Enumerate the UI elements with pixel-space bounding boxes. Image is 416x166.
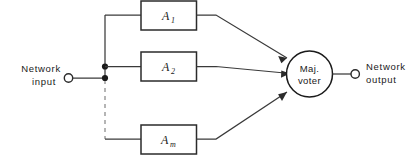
- block-am-subscript: m: [170, 140, 176, 149]
- majority-voter-label-line1: Maj.: [300, 63, 320, 74]
- wire-a1-to-voter: [197, 15, 288, 58]
- arrowhead-am-to-voter: [278, 92, 287, 101]
- block-am[interactable]: [141, 125, 197, 154]
- network-input-label-line2: input: [32, 76, 56, 87]
- network-output-label-line2: output: [366, 74, 397, 85]
- network-input-label-line1: Network: [21, 63, 61, 74]
- diagram-canvas: A 1 A 2 A m Maj. voter Network input Net…: [0, 0, 416, 166]
- majority-voter[interactable]: [287, 51, 333, 97]
- block-a2-label: A: [161, 60, 170, 74]
- block-a2-subscript: 2: [171, 67, 175, 76]
- network-output-label-line1: Network: [366, 61, 406, 72]
- majority-voter-label-line2: voter: [298, 75, 321, 86]
- block-am-label: A: [160, 133, 169, 147]
- network-output-terminal[interactable]: [351, 70, 359, 78]
- block-a1-subscript: 1: [171, 16, 175, 25]
- junction-dot-lower: [102, 75, 108, 81]
- wire-a2-to-voter: [197, 67, 291, 74]
- wire-am-to-voter: [197, 92, 288, 139]
- redundant-network-diagram: A 1 A 2 A m Maj. voter Network input Net…: [0, 0, 416, 166]
- network-input-terminal[interactable]: [64, 74, 72, 82]
- block-a1-label: A: [161, 9, 170, 23]
